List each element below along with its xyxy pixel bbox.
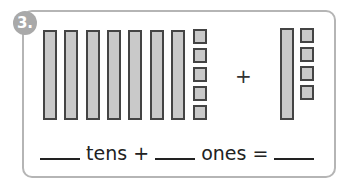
equation-plus: + [133,142,149,164]
one-cube [193,86,207,101]
one-cube [300,85,314,100]
ten-rod [64,30,78,120]
one-cube [193,48,207,63]
ten-rod [150,30,164,120]
total-answer-blank[interactable] [274,144,314,160]
tens-label: tens [86,142,127,164]
one-cube [300,47,314,62]
ten-rod [171,30,185,120]
one-cube [300,66,314,81]
plus-sign: + [235,66,252,86]
one-cube [193,105,207,120]
tens-answer-blank[interactable] [40,144,80,160]
one-cube [193,67,207,82]
problem-number-badge: 3. [13,11,37,35]
ten-rod [43,30,57,120]
equation-equals: = [253,142,269,164]
one-cube [300,28,314,43]
ten-rod [128,30,142,120]
ones-label: ones [201,142,246,164]
ten-rod [86,30,100,120]
ten-rod [280,28,294,120]
ten-rod [107,30,121,120]
one-cube [193,29,207,44]
equation-line: tens + ones = [40,142,314,164]
ones-answer-blank[interactable] [155,144,195,160]
